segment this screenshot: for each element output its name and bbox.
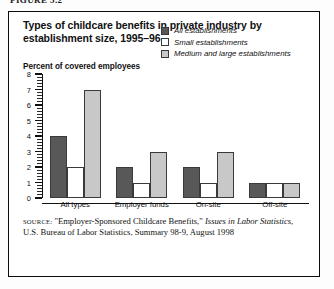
y-axis-minor-tick [37,139,42,140]
y-axis-minor-tick [37,160,42,161]
y-axis-minor-tick [37,95,42,96]
y-axis-major-tick [35,135,42,136]
bar [200,183,217,199]
bar [217,152,234,199]
y-axis-major-tick [35,182,42,183]
y-axis-minor-tick [37,188,42,189]
y-axis-major-tick [35,197,42,198]
y-axis-minor-tick [37,191,42,192]
source-line: "Employer-Sponsored Childcare Benefits," [52,216,205,226]
y-axis-minor-tick [37,173,42,174]
y-axis-minor-tick [37,194,42,195]
y-axis-tick-label: 4 [17,133,31,140]
y-axis-minor-tick [37,129,42,130]
y-axis-minor-tick [37,157,42,158]
legend-swatch-small-establishments [161,38,169,46]
bar [266,183,283,199]
y-axis-minor-tick [37,98,42,99]
y-axis-tick-label: 1 [17,179,31,186]
y-axis-minor-tick [37,101,42,102]
bar-group: Employer funds [116,74,167,198]
bar-group: All types [50,74,101,198]
legend-item: Small establishments [161,38,291,47]
x-axis-category-label: Off-site [231,200,318,209]
bar [183,167,200,198]
y-axis-tick-label: 5 [17,117,31,124]
bar [84,90,101,199]
y-axis-tick-label: 6 [17,102,31,109]
bar [150,152,167,199]
bar-group: On-site [183,74,234,198]
source-keyword: SOURCE: [23,218,52,225]
y-axis-minor-tick [37,108,42,109]
figure-container: FIGURE 5.2 Types of childcare benefits i… [0,0,334,289]
y-axis-major-tick [35,89,42,90]
y-axis-minor-tick [37,145,42,146]
y-axis-minor-tick [37,185,42,186]
y-axis-minor-tick [37,86,42,87]
bar [133,183,150,199]
chart-legend: All establishments Small establishments … [161,26,291,61]
y-axis-minor-tick [37,154,42,155]
y-axis-tick-label: 3 [17,148,31,155]
y-axis-minor-tick [37,117,42,118]
legend-swatch-all-establishments [161,27,169,35]
bar-groups: All typesEmployer fundsOn-siteOff-site [43,74,309,198]
y-axis-minor-tick [37,114,42,115]
legend-label: Small establishments [174,38,248,47]
figure-frame: Types of childcare benefits in private i… [8,11,320,277]
y-axis-minor-tick [37,92,42,93]
bar [249,183,266,199]
legend-swatch-medium-large-establishments [161,50,169,58]
y-axis-minor-tick [37,179,42,180]
y-axis-minor-tick [37,126,42,127]
y-axis-major-tick [35,104,42,105]
y-axis-major-tick [35,166,42,167]
y-axis-major-tick [35,120,42,121]
plot-area: 012345678 All typesEmployer fundsOn-site… [23,74,309,204]
y-axis-minor-tick [37,132,42,133]
bar [50,136,67,198]
legend-item: All establishments [161,26,291,35]
figure-label: FIGURE 5.2 [10,0,63,3]
y-axis-title: Percent of covered employees [23,62,140,71]
legend-item: Medium and large establishments [161,49,291,58]
y-axis-minor-tick [37,163,42,164]
y-axis-minor-tick [37,142,42,143]
y-axis-tick-label: 2 [17,164,31,171]
y-axis-tick-label: 0 [17,195,31,202]
y-axis-minor-tick [37,77,42,78]
y-axis-major-tick [35,73,42,74]
y-axis: 012345678 [23,74,43,198]
source-note: SOURCE: "Employer-Sponsored Childcare Be… [23,216,305,238]
y-axis-minor-tick [37,170,42,171]
y-axis-minor-tick [37,123,42,124]
y-axis-minor-tick [37,148,42,149]
source-italic: Issues in Labor Statistics [205,216,291,226]
y-axis-minor-tick [37,83,42,84]
y-axis-minor-tick [37,176,42,177]
y-axis-major-tick [35,151,42,152]
y-axis-minor-tick [37,111,42,112]
y-axis-tick-label: 7 [17,86,31,93]
y-axis-minor-tick [37,80,42,81]
bar [116,167,133,198]
legend-label: Medium and large establishments [174,49,291,58]
bar [283,183,300,199]
bar-group: Off-site [249,74,300,198]
legend-label: All establishments [174,26,237,35]
bar [67,167,84,198]
y-axis-tick-label: 8 [17,71,31,78]
